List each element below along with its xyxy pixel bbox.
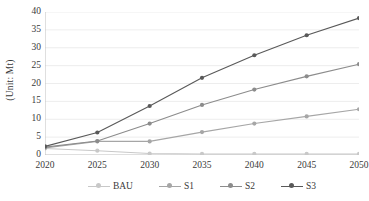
- data-point: [148, 104, 152, 108]
- data-point: [95, 149, 99, 153]
- data-point: [252, 152, 256, 155]
- x-axis-tick-label: 2030: [140, 160, 159, 170]
- series-bau: [45, 146, 359, 155]
- y-axis-tick-label: 0: [36, 150, 41, 160]
- data-point: [95, 139, 99, 143]
- x-axis-tick-label: 2020: [36, 160, 55, 170]
- data-point: [305, 33, 309, 37]
- data-point: [357, 16, 359, 20]
- y-axis-tick-label: 40: [32, 7, 42, 17]
- y-axis-title-label: (Unit: Mt): [5, 59, 15, 100]
- data-point: [148, 139, 152, 143]
- y-axis-tick-label: 5: [36, 132, 41, 142]
- x-axis-tick-label: 2040: [245, 160, 264, 170]
- data-point: [357, 152, 359, 155]
- y-axis-tick-label: 30: [32, 43, 42, 53]
- x-axis-tick-label: 2025: [88, 160, 107, 170]
- legend-marker-icon: [159, 182, 181, 190]
- data-point: [200, 76, 204, 80]
- y-axis-tick-labels: 0510152025303540: [20, 0, 43, 160]
- data-point: [95, 130, 99, 134]
- y-axis-tick-label: 10: [32, 115, 42, 125]
- data-point: [305, 114, 309, 118]
- y-axis-tick-label: 25: [32, 61, 42, 71]
- legend-item-s1[interactable]: S1: [159, 181, 194, 191]
- data-point: [200, 130, 204, 134]
- data-point: [252, 53, 256, 57]
- legend-marker-icon: [281, 182, 303, 190]
- data-point: [148, 151, 152, 155]
- y-axis-tick-label: 35: [32, 25, 42, 35]
- legend-item-s3[interactable]: S3: [281, 181, 316, 191]
- data-point: [200, 103, 204, 107]
- series-s3: [45, 16, 359, 149]
- legend-item-label: BAU: [113, 181, 133, 191]
- legend-item-s2[interactable]: S2: [220, 181, 255, 191]
- x-axis-tick-label: 2045: [297, 160, 316, 170]
- y-axis-tick-label: 15: [32, 97, 42, 107]
- series-s2: [45, 62, 359, 149]
- data-point: [200, 152, 204, 155]
- x-axis-tick-label: 2035: [193, 160, 212, 170]
- series-s1: [45, 107, 359, 150]
- series-line: [45, 18, 359, 146]
- data-point: [305, 74, 309, 78]
- legend-item-label: S2: [245, 181, 255, 191]
- data-point: [252, 121, 256, 125]
- plot-area: [45, 12, 359, 155]
- data-point: [305, 152, 309, 155]
- data-point: [357, 107, 359, 111]
- y-axis-title: (Unit: Mt): [0, 0, 20, 160]
- legend-item-label: S1: [184, 181, 194, 191]
- legend-marker-icon: [88, 182, 110, 190]
- x-axis-tick-label: 2050: [350, 160, 369, 170]
- legend-marker-icon: [220, 182, 242, 190]
- plot-svg: [45, 12, 359, 155]
- data-point: [252, 87, 256, 91]
- chart-legend: BAUS1S2S3: [45, 178, 359, 194]
- x-axis-tick-labels: 2020202520302035204020452050: [43, 158, 361, 174]
- y-axis-tick-label: 20: [32, 79, 42, 89]
- legend-item-label: S3: [306, 181, 316, 191]
- legend-item-bau[interactable]: BAU: [88, 181, 133, 191]
- data-point: [148, 121, 152, 125]
